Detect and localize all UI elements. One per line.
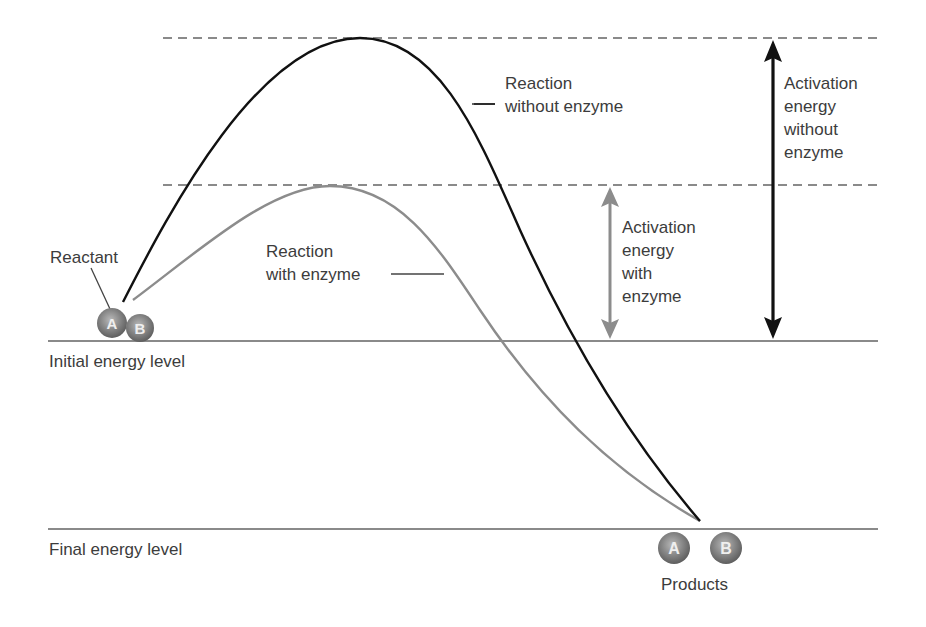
activation-with-line4: enzyme: [622, 285, 696, 308]
product-molecules: A B: [658, 532, 742, 564]
activation-without-line3: without: [784, 118, 858, 141]
reaction-with-enzyme-line2: with enzyme: [266, 263, 360, 286]
activation-without-enzyme-label: Activation energy without enzyme: [784, 72, 858, 164]
reaction-without-enzyme-label: Reaction without enzyme: [505, 72, 623, 118]
activation-without-enzyme-arrow: [764, 40, 782, 339]
product-a-letter: A: [668, 540, 680, 557]
reactant-a-letter: A: [107, 315, 118, 332]
reaction-with-enzyme-line1: Reaction: [266, 240, 360, 263]
reaction-without-enzyme-line2: without enzyme: [505, 95, 623, 118]
reactant-b-letter: B: [135, 320, 146, 337]
activation-with-line1: Activation: [622, 216, 696, 239]
activation-with-line3: with: [622, 262, 696, 285]
activation-with-enzyme-label: Activation energy with enzyme: [622, 216, 696, 308]
leader-reactant: [91, 268, 110, 309]
reaction-without-enzyme-line1: Reaction: [505, 72, 623, 95]
reactant-molecules: A B: [97, 308, 154, 342]
activation-without-line4: enzyme: [784, 141, 858, 164]
initial-energy-label: Initial energy level: [49, 350, 185, 373]
activation-with-enzyme-arrow: [601, 187, 619, 339]
activation-without-line2: energy: [784, 95, 858, 118]
reactant-label: Reactant: [50, 246, 118, 269]
curve-with-enzyme: [133, 186, 700, 521]
activation-without-line1: Activation: [784, 72, 858, 95]
final-energy-label: Final energy level: [49, 538, 182, 561]
reaction-with-enzyme-label: Reaction with enzyme: [266, 240, 360, 286]
product-b-letter: B: [720, 540, 732, 557]
activation-with-line2: energy: [622, 239, 696, 262]
products-label: Products: [661, 573, 728, 596]
